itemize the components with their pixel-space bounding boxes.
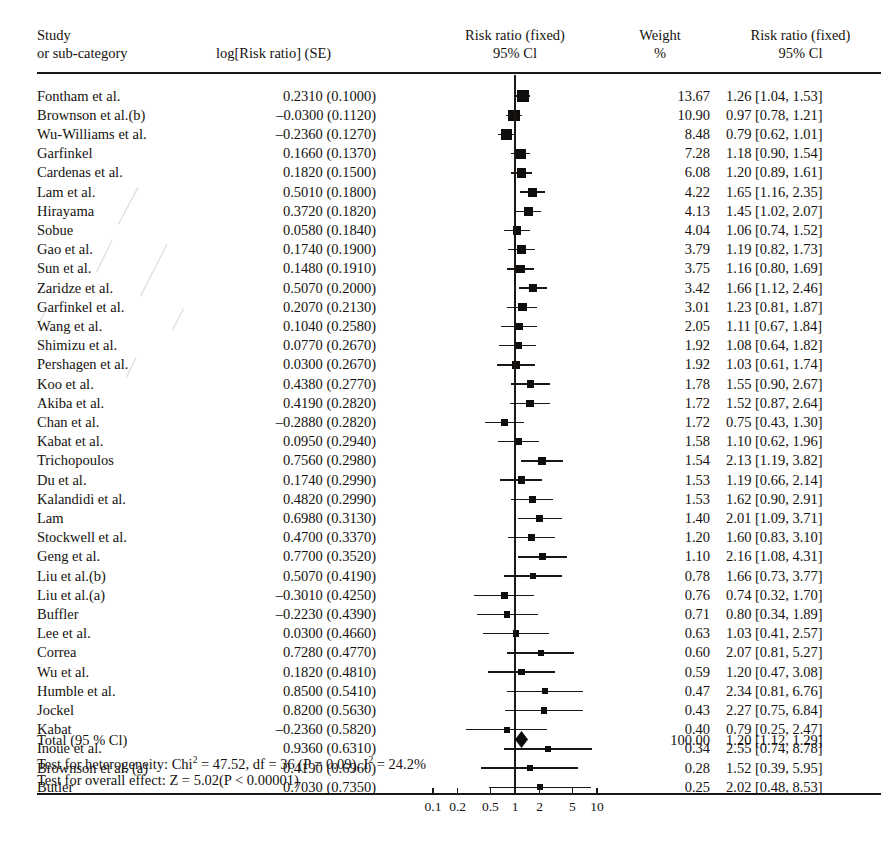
table-row: Brownson et al.(b)–0.0300 (0.1120)10.900… [0,106,891,125]
table-row: Stockwell et al.0.4700 (0.3370)1.201.60 … [0,528,891,547]
log-rr-se: 0.6980 (0.3130) [216,509,376,528]
study-name: Jockel [37,701,227,720]
axis-rule [37,793,881,795]
study-weight: 1.40 [600,509,710,528]
study-name: Fontham et al. [37,87,227,106]
table-row: Cardenas et al.0.1820 (0.1500)6.081.20 [… [0,163,891,182]
effect-estimate-box [516,265,525,274]
effect-estimate-box [501,129,512,140]
effect-estimate-box [518,669,524,675]
study-weight: 3.42 [600,279,710,298]
log-rr-se: –0.0300 (0.1120) [216,106,376,125]
effect-estimate-box [536,515,543,522]
effect-estimate-box [538,457,545,464]
effect-estimate-box [530,573,537,580]
log-rr-se: 0.3720 (0.1820) [216,202,376,221]
log-rr-se: 0.8200 (0.5630) [216,701,376,720]
study-name: Brownson et al.(b) [37,106,227,125]
study-weight: 1.20 [600,528,710,547]
study-name: Kalandidi et al. [37,490,227,509]
study-rr-ci: 1.11 [0.67, 1.84] [726,317,881,336]
log-rr-se: 0.1480 (0.1910) [216,259,376,278]
study-weight: 1.72 [600,394,710,413]
study-rr-ci: 2.34 [0.81, 6.76] [726,682,881,701]
table-row: Garfinkel0.1660 (0.1370)7.281.18 [0.90, … [0,144,891,163]
axis-tick-label: 10 [577,799,617,815]
header-weight-line1: Weight [610,27,710,44]
log-rr-se: –0.2360 (0.5820) [216,720,376,739]
log-rr-se: –0.2360 (0.1270) [216,125,376,144]
table-row: Koo et al.0.4380 (0.2770)1.781.55 [0.90,… [0,375,891,394]
header-weight-line2: % [610,45,710,62]
study-weight: 4.22 [600,183,710,202]
table-row: Geng et al.0.7700 (0.3520)1.102.16 [1.08… [0,547,891,566]
study-weight: 4.13 [600,202,710,221]
study-weight: 1.10 [600,547,710,566]
effect-estimate-box [526,400,533,407]
study-name: Liu et al.(b) [37,567,227,586]
study-weight: 0.71 [600,605,710,624]
study-name: Geng et al. [37,547,227,566]
effect-estimate-box [504,611,511,618]
study-weight: 3.75 [600,259,710,278]
study-weight: 1.92 [600,355,710,374]
header-study-line2: or sub-category [37,45,128,62]
study-rr-ci: 1.06 [0.74, 1.52] [726,221,881,240]
header-study-line1: Study [37,27,71,44]
study-rr-ci: 1.18 [0.90, 1.54] [726,144,881,163]
study-weight: 0.59 [600,663,710,682]
table-row: Sobue0.0580 (0.1840)4.041.06 [0.74, 1.52… [0,221,891,240]
effect-estimate-box [528,534,535,541]
study-name: Wu et al. [37,663,227,682]
study-weight: 1.53 [600,490,710,509]
study-rr-ci: 0.79 [0.62, 1.01] [726,125,881,144]
log-rr-se: 0.1660 (0.1370) [216,144,376,163]
axis-tick [432,788,434,795]
study-name: Kabat et al. [37,432,227,451]
study-name: Lee et al. [37,624,227,643]
study-weight: 3.79 [600,240,710,259]
effect-estimate-box [517,90,529,102]
header-rr-line1: Risk ratio (fixed) [718,27,883,44]
log-rr-se: 0.4190 (0.2820) [216,394,376,413]
table-row: Hirayama0.3720 (0.1820)4.131.45 [1.02, 2… [0,202,891,221]
log-rr-se: 0.7280 (0.4770) [216,643,376,662]
effect-estimate-box [515,323,523,331]
study-rr-ci: 1.45 [1.02, 2.07] [726,202,881,221]
effect-estimate-box [501,592,508,599]
effect-estimate-box [529,284,538,293]
study-name: Garfinkel et al. [37,298,227,317]
log-rr-se: –0.2230 (0.4390) [216,605,376,624]
heterogeneity-suffix: = 24.2% [373,756,426,772]
log-rr-se: 0.2310 (0.1000) [216,87,376,106]
effect-estimate-box [541,707,547,713]
effect-estimate-box [539,553,546,560]
null-effect-line [514,75,516,793]
table-row: Sun et al.0.1480 (0.1910)3.751.16 [0.80,… [0,259,891,278]
total-label: Total (95 % Cl) [37,731,127,751]
study-name: Wang et al. [37,317,227,336]
study-weight: 0.76 [600,586,710,605]
study-weight: 6.08 [600,163,710,182]
study-weight: 3.01 [600,298,710,317]
table-row: Kalandidi et al.0.4820 (0.2990)1.531.62 … [0,490,891,509]
effect-estimate-box [501,419,508,426]
study-weight: 8.48 [600,125,710,144]
log-rr-se: 0.1740 (0.1900) [216,240,376,259]
study-rr-ci: 0.74 [0.32, 1.70] [726,586,881,605]
effect-estimate-box [527,765,533,771]
axis-tick [457,788,459,795]
study-weight: 0.78 [600,567,710,586]
table-row: Zaridze et al.0.5070 (0.2000)3.421.66 [1… [0,279,891,298]
study-rr-ci: 1.03 [0.61, 1.74] [726,355,881,374]
study-name: Sun et al. [37,259,227,278]
study-name: Stockwell et al. [37,528,227,547]
study-weight: 7.28 [600,144,710,163]
table-row: Du et al.0.1740 (0.2990)1.531.19 [0.66, … [0,471,891,490]
study-name: Chan et al. [37,413,227,432]
log-rr-se: 0.7700 (0.3520) [216,547,376,566]
study-weight: 4.04 [600,221,710,240]
table-row: Kabat et al.0.0950 (0.2940)1.581.10 [0.6… [0,432,891,451]
forest-plot: Study or sub-category log[Risk ratio] (S… [0,0,891,853]
effect-estimate-box [529,496,536,503]
